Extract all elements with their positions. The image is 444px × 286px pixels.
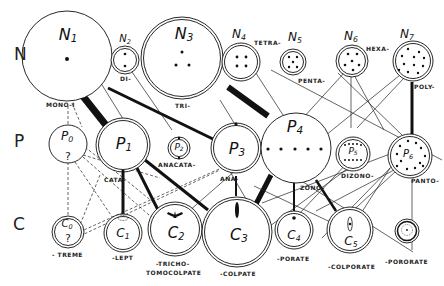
- label-C3: C3: [230, 227, 248, 244]
- label-N5: N5: [288, 31, 302, 45]
- node-C6: [395, 219, 419, 243]
- label-P3: P3: [229, 141, 245, 158]
- prefix-tetra: TETRA-: [254, 40, 281, 46]
- label-N4: N4: [232, 28, 246, 42]
- prefix-cata: CATA-: [104, 177, 126, 183]
- label-N3: N3: [175, 26, 194, 43]
- suffix-tricho: -TRICHO-: [156, 261, 190, 267]
- row-label-C: C: [13, 214, 25, 234]
- label-N6: N6: [344, 30, 358, 44]
- node-N7: [393, 41, 433, 81]
- label-N7: N7: [400, 28, 414, 42]
- prefix-panto: PANTO-: [411, 178, 439, 184]
- node-N6: [336, 45, 368, 77]
- aperture-dot: [65, 57, 69, 61]
- label-C5: C5: [344, 235, 357, 249]
- suffix-tomocolpate: TOMOCOLPATE: [146, 270, 201, 276]
- node-N5: [280, 49, 306, 75]
- suffix-colporate: -COLPORATE: [328, 264, 375, 270]
- prefix-zono: ZONO-: [300, 185, 325, 191]
- prefix-di: DI-: [120, 76, 131, 82]
- label-P4: P4: [287, 119, 303, 136]
- prefix-poly: POLY-: [414, 84, 435, 90]
- unknown-mark-C0: ?: [65, 232, 71, 245]
- pore-icon: [292, 216, 296, 220]
- label-N1: N1: [59, 27, 78, 44]
- node-N4: [222, 43, 260, 81]
- prefix-anacata: ANACATA-: [158, 162, 196, 168]
- label-P0: P0: [61, 130, 73, 144]
- label-P6: P6: [403, 149, 413, 160]
- node-N2: [111, 46, 139, 74]
- suffix-colpate: -COLPATE: [220, 271, 256, 277]
- suffix-lept: -LEPT: [112, 255, 133, 261]
- label-N2: N2: [119, 34, 131, 45]
- label-C1: C1: [116, 227, 129, 241]
- suffix-porate: -PORATE: [277, 256, 309, 262]
- label-C2: C2: [168, 226, 185, 242]
- label-C4: C4: [287, 229, 300, 243]
- prefix-dizono: DIZONO-: [341, 173, 374, 179]
- unknown-mark-P0: ?: [65, 150, 71, 163]
- row-label-N: N: [14, 44, 27, 64]
- row-label-P: P: [14, 131, 24, 151]
- label-P1: P1: [116, 136, 132, 153]
- colpus-icon: [235, 202, 239, 218]
- label-P5: P5: [348, 147, 357, 157]
- prefix-ana: ANA-: [220, 176, 239, 182]
- prefix-hexa: HEXA-: [366, 46, 389, 52]
- label-C0: C0: [61, 219, 72, 230]
- prefix-mono: MONO-I: [46, 102, 75, 108]
- suffix-treme: - TREME: [52, 252, 83, 258]
- suffix-pororate: -PORORATE: [385, 259, 428, 265]
- prefix-penta: PENTA-: [298, 78, 325, 84]
- label-P2: P2: [174, 143, 183, 153]
- prefix-tri: TRI-: [175, 103, 190, 109]
